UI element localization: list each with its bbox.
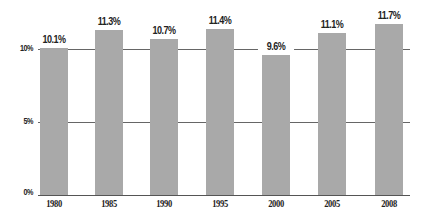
bar-1980	[40, 48, 68, 195]
x-tick-label: 1985	[92, 198, 126, 209]
x-axis-line	[38, 195, 410, 196]
value-label: 11.3%	[91, 15, 127, 27]
value-label: 10.1%	[36, 33, 72, 45]
bar-2005	[318, 33, 346, 195]
bar-2008	[375, 24, 403, 195]
x-tick-label: 1980	[37, 198, 71, 209]
x-tick-label: 1990	[147, 198, 181, 209]
bar-1985	[95, 30, 123, 195]
bar-1995	[206, 29, 234, 195]
bar-1990	[150, 39, 178, 195]
value-label: 11.1%	[314, 18, 350, 30]
bar-chart: 10% 5% 0% 10.1%11.3%10.7%11.4%9.6%11.1%1…	[0, 0, 432, 219]
bar-2000	[262, 55, 290, 195]
x-tick-label: 2000	[259, 198, 293, 209]
y-tick-label: 10%	[9, 43, 33, 53]
x-tick-label: 2008	[372, 198, 406, 209]
y-tick-label: 0%	[9, 187, 33, 197]
y-tick-label: 5%	[9, 116, 33, 126]
value-label: 9.6%	[258, 40, 294, 52]
x-tick-label: 2005	[315, 198, 349, 209]
x-tick-label: 1995	[203, 198, 237, 209]
value-label: 11.7%	[371, 9, 407, 21]
value-label: 11.4%	[202, 14, 238, 26]
value-label: 10.7%	[146, 24, 182, 36]
